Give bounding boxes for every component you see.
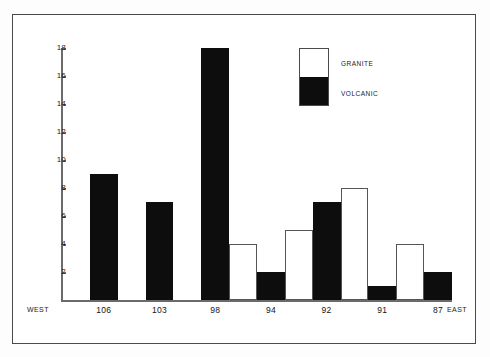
bar-volcanic-94: [257, 272, 285, 300]
figure-canvas: 18161412108642 1061039894929187 WEST EAS…: [0, 0, 490, 357]
bar-volcanic-98: [201, 48, 229, 300]
bar-granite-5: [285, 230, 313, 300]
legend-label-volcanic: VOLCANIC: [341, 90, 378, 97]
legend-swatch-volcanic: [300, 77, 328, 105]
east-axis-label: EAST: [447, 306, 467, 313]
x-axis-label-92: 92: [313, 305, 341, 315]
bar-volcanic-87: [424, 272, 452, 300]
legend-swatch-box: [299, 48, 329, 106]
bar-volcanic-92: [313, 202, 341, 300]
bar-volcanic-106: [90, 174, 118, 300]
bar-granite-7: [341, 188, 369, 300]
west-axis-label: WEST: [27, 306, 49, 313]
chart-legend: GRANITE VOLCANIC: [299, 48, 429, 110]
x-axis-label-94: 94: [257, 305, 285, 315]
legend-label-granite: GRANITE: [341, 60, 373, 67]
bar-volcanic-103: [146, 202, 174, 300]
x-axis-line: [61, 300, 452, 302]
bar-granite-3: [229, 244, 257, 300]
bar-granite-9: [396, 244, 424, 300]
plot-area: 18161412108642 1061039894929187 WEST EAS…: [0, 0, 490, 357]
bar-volcanic-91: [368, 286, 396, 300]
x-axis-label-106: 106: [90, 305, 118, 315]
x-axis-label-98: 98: [201, 305, 229, 315]
x-axis-label-91: 91: [368, 305, 396, 315]
x-axis-label-103: 103: [146, 305, 174, 315]
legend-swatch-granite: [300, 49, 328, 77]
